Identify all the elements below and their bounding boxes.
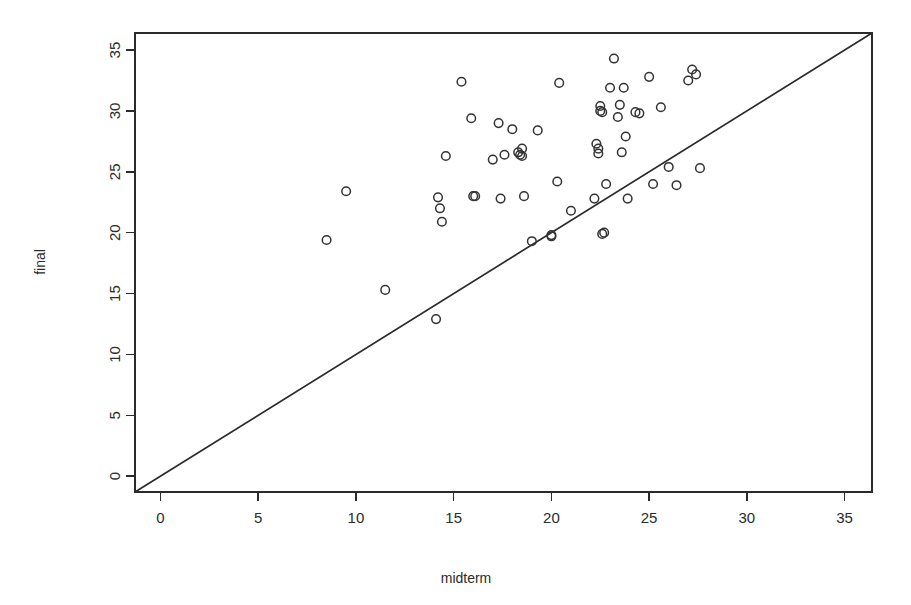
scatter-point xyxy=(619,83,628,92)
scatter-point xyxy=(322,236,331,245)
y-tick-label: 25 xyxy=(107,163,124,180)
y-tick-label: 5 xyxy=(107,411,124,419)
scatter-point xyxy=(442,152,451,161)
scatter-point xyxy=(602,180,611,189)
scatter-point xyxy=(342,187,351,196)
reference-line-segment xyxy=(135,33,872,492)
scatter-point xyxy=(623,194,632,203)
y-tick-label: 0 xyxy=(107,472,124,480)
x-tick-label: 15 xyxy=(445,509,462,526)
scatter-point xyxy=(508,125,517,134)
scatter-point-series xyxy=(322,54,704,323)
scatter-point xyxy=(494,119,503,128)
y-tick-label: 35 xyxy=(107,42,124,59)
x-tick-label: 0 xyxy=(156,509,164,526)
scatter-point xyxy=(649,180,658,189)
scatter-point xyxy=(610,54,619,63)
scatter-point xyxy=(696,164,705,173)
scatter-point xyxy=(645,73,654,82)
scatter-point xyxy=(664,163,673,172)
scatter-point xyxy=(381,286,390,295)
scatter-point xyxy=(500,150,509,159)
identity-reference-line xyxy=(135,33,872,492)
scatter-point xyxy=(672,181,681,190)
x-tick-label: 35 xyxy=(836,509,853,526)
scatter-point xyxy=(567,206,576,215)
scatter-point xyxy=(457,77,466,86)
x-axis-title: midterm xyxy=(441,570,492,586)
scatter-point xyxy=(432,315,441,324)
y-axis-title: final xyxy=(32,249,48,275)
y-tick-label: 15 xyxy=(107,285,124,302)
chart-canvas: 05101520253035 05101520253035 midterm fi… xyxy=(0,0,911,605)
y-tick-label: 10 xyxy=(107,346,124,363)
scatter-point xyxy=(533,126,542,135)
scatter-point xyxy=(555,79,564,88)
scatter-point xyxy=(438,217,447,226)
x-tick-label: 20 xyxy=(543,509,560,526)
scatter-point xyxy=(436,204,445,213)
y-axis-ticks: 05101520253035 xyxy=(107,42,136,481)
scatter-point xyxy=(617,148,626,157)
scatter-point xyxy=(657,103,666,112)
x-tick-label: 30 xyxy=(739,509,756,526)
scatter-point xyxy=(434,193,443,202)
x-axis-ticks: 05101520253035 xyxy=(156,492,853,526)
scatter-plot-figure: 05101520253035 05101520253035 midterm fi… xyxy=(0,0,911,605)
scatter-point xyxy=(488,155,497,164)
scatter-point xyxy=(684,76,693,85)
scatter-point xyxy=(553,177,562,186)
x-tick-label: 25 xyxy=(641,509,658,526)
scatter-point xyxy=(606,83,615,92)
scatter-point xyxy=(496,194,505,203)
scatter-point xyxy=(616,101,625,110)
scatter-point xyxy=(614,113,623,122)
scatter-point xyxy=(467,114,476,123)
y-tick-label: 30 xyxy=(107,103,124,120)
x-tick-label: 5 xyxy=(254,509,262,526)
scatter-point xyxy=(520,192,529,201)
scatter-point xyxy=(621,132,630,141)
y-tick-label: 20 xyxy=(107,224,124,241)
scatter-point xyxy=(590,194,599,203)
x-tick-label: 10 xyxy=(348,509,365,526)
